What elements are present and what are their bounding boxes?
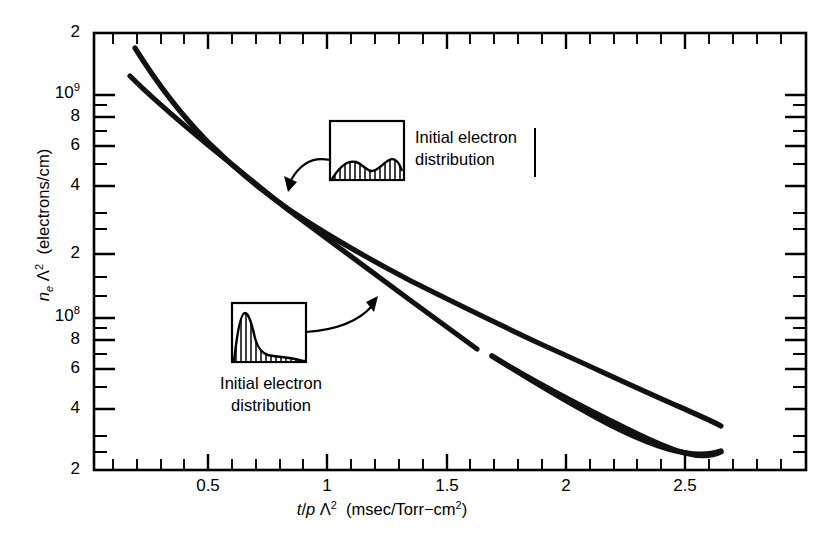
annotation-lower-line2: distribution [196, 394, 346, 416]
x-tick-label-2: 2 [541, 476, 591, 496]
y-tick-label-2e9: 2 [28, 22, 80, 42]
y-tick-label-2e7: 2 [28, 459, 80, 479]
x-tick-label-1: 1 [302, 476, 352, 496]
leader-arrow-lower [306, 306, 372, 332]
x-axis-ticks [113, 454, 781, 470]
chart-annotation-layer [0, 0, 824, 547]
curve-peaked-distribution-part1 [130, 76, 477, 349]
x-tick-label-2p5: 2.5 [660, 476, 710, 496]
y-axis-ticks [94, 95, 115, 452]
curve-broad-distribution [135, 48, 721, 426]
annotation-lower-caption: Initial electron distribution [196, 372, 346, 417]
annotation-upper-line1: Initial electron [415, 126, 517, 148]
curve-peaked-distribution-part2 [492, 356, 721, 454]
chart-curves-layer [0, 0, 824, 547]
annotation-lower-line1: Initial electron [196, 372, 346, 394]
leader-arrowhead-upper [284, 176, 297, 192]
x-tick-label-0p5: 0.5 [183, 476, 233, 496]
inset-broad-profile [332, 159, 402, 179]
inset-peaked-hatch [232, 305, 306, 364]
leader-arrow-upper [291, 159, 330, 180]
leader-arrowhead-lower [366, 296, 378, 312]
annotation-upper-line2: distribution [415, 148, 517, 170]
chart-figure: 2 109 8 6 4 2 108 8 6 4 2 0.5 1 1.5 2 2.… [0, 0, 824, 547]
chart-axes-layer [0, 0, 824, 547]
inset-peaked-frame [232, 303, 306, 362]
inset-broad-distribution [330, 121, 404, 182]
curve-peaked-distribution-part2b [492, 356, 721, 456]
inset-peaked-profile [234, 313, 305, 361]
x-axis-ticks-top [113, 33, 781, 49]
inset-broad-hatch [330, 150, 404, 182]
inset-broad-frame [330, 121, 404, 180]
y-axis-ticks-right [785, 95, 806, 452]
inset-peaked-distribution [232, 303, 306, 364]
annotation-upper-caption: Initial electron distribution [415, 126, 517, 171]
y-tick-label-4e7: 4 [28, 398, 80, 418]
x-axis-label: t/p Λ2 (msec/Torr−cm2) [0, 500, 824, 519]
y-axis-label: ne Λ2 (electrons/cm) [34, 75, 53, 375]
x-tick-label-1p5: 1.5 [422, 476, 472, 496]
